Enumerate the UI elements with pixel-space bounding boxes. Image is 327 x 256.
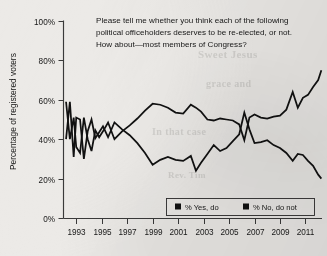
legend-swatch-yes	[175, 204, 181, 210]
y-axis-tick-labels: 0%20%40%60%80%100%	[34, 18, 55, 224]
x-tick-label: 2003	[195, 228, 214, 237]
x-tick-label: 2009	[271, 228, 290, 237]
x-tick-label: 2011	[297, 228, 315, 237]
chart-title-line-3: How about—most members of Congress?	[96, 40, 247, 49]
x-tick-label: 1999	[144, 228, 163, 237]
x-tick-label: 1997	[118, 228, 137, 237]
legend[interactable]: % Yes, do % No, do not	[167, 199, 315, 216]
x-tick-label: 1995	[93, 228, 112, 237]
chart-title-line-1: Please tell me whether you think each of…	[96, 16, 289, 25]
y-tick-label: 80%	[39, 57, 55, 66]
x-tick-label: 2001	[169, 228, 188, 237]
legend-label-yes[interactable]: % Yes, do	[185, 203, 219, 212]
y-tick-label: 40%	[39, 136, 55, 145]
y-axis-title-group: Percentage of registered voters	[8, 53, 18, 170]
series-line-no	[66, 70, 321, 153]
y-tick-label: 100%	[34, 18, 55, 27]
legend-swatch-no	[243, 204, 249, 210]
x-axis-tick-labels: 1993199519971999200120032005200720092011	[67, 228, 314, 237]
y-tick-label: 60%	[39, 97, 55, 106]
x-axis-ticks	[77, 219, 306, 225]
data-series-group	[66, 70, 321, 178]
x-tick-label: 1993	[67, 228, 86, 237]
y-tick-label: 20%	[39, 176, 55, 185]
legend-label-no[interactable]: % No, do not	[253, 203, 298, 212]
y-axis-ticks	[59, 22, 64, 219]
chart-container: Sweet Jesus grace and In that case Rev. …	[0, 0, 327, 256]
chart-title-group: Please tell me whether you think each of…	[96, 16, 292, 49]
chart-title-line-2: political officeholders deserves to be r…	[96, 28, 292, 37]
x-tick-label: 2007	[246, 228, 265, 237]
y-axis-title: Percentage of registered voters	[8, 53, 18, 170]
line-chart: Percentage of registered voters Please t…	[0, 0, 327, 256]
y-tick-label: 0%	[43, 215, 55, 224]
x-tick-label: 2005	[220, 228, 239, 237]
